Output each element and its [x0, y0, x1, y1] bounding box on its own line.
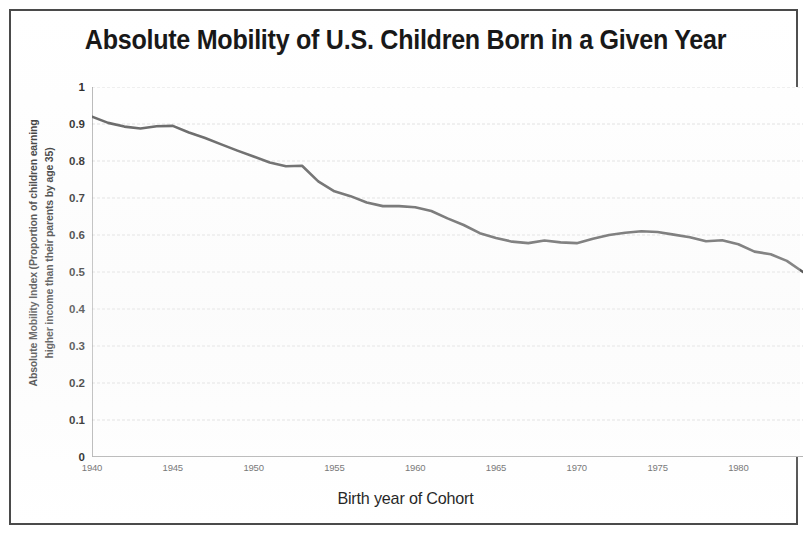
x-axis-tick-label: 1960: [393, 462, 437, 473]
y-axis-tick-label: 0.6: [51, 229, 85, 241]
y-axis-tick-label: 0.1: [51, 414, 85, 426]
x-axis-tick-labels: 194019451950195519601965197019751980: [92, 462, 803, 480]
y-axis-tick-label: 0.4: [51, 303, 85, 315]
y-axis-title-line-1: Absolute Mobility Index (Proportion of c…: [25, 83, 41, 423]
y-axis-tick-label: 0.8: [51, 155, 85, 167]
x-axis-tick-label: 1950: [232, 462, 276, 473]
x-axis-tick-label: 1980: [716, 462, 760, 473]
x-axis-tick-label: 1965: [474, 462, 518, 473]
x-axis-tick-label: 1970: [555, 462, 599, 473]
figure-frame: Absolute Mobility of U.S. Children Born …: [9, 9, 798, 525]
chart-plot-svg: [92, 87, 803, 457]
y-axis-tick-label: 0.5: [51, 266, 85, 278]
x-axis-tick-label: 1940: [70, 462, 114, 473]
x-axis-title: Birth year of Cohort: [31, 489, 781, 509]
x-axis-tick-label: 1945: [151, 462, 195, 473]
y-axis-tick-label: 0.7: [51, 192, 85, 204]
y-axis-tick-label: 0.3: [51, 340, 85, 352]
plot-area: [92, 87, 803, 457]
x-axis-tick-label: 1955: [312, 462, 356, 473]
data-series-line: [92, 117, 803, 272]
chart-title: Absolute Mobility of U.S. Children Born …: [39, 25, 773, 56]
y-axis-tick-label: 0.2: [51, 377, 85, 389]
y-axis-tick-label: 0.9: [51, 118, 85, 130]
y-axis-tick-labels: 10.90.80.70.60.50.40.30.20.10: [47, 87, 85, 457]
y-axis-tick-label: 1: [51, 81, 85, 93]
x-axis-tick-label: 1975: [636, 462, 680, 473]
